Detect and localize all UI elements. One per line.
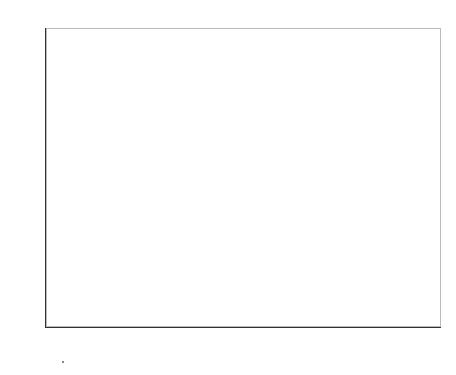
stray-dot — [62, 361, 64, 363]
grayplot-area — [46, 28, 441, 327]
y-axis-line — [45, 28, 46, 328]
x-axis-line — [46, 327, 441, 328]
